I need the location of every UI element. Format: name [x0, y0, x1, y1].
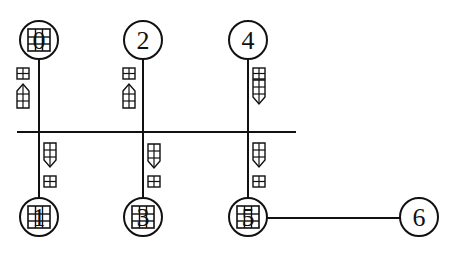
arrow-up-icon — [17, 84, 29, 108]
node-4: 4 — [229, 21, 267, 59]
arrow-down-icon — [44, 143, 56, 167]
glyph-box-icon — [253, 68, 265, 79]
glyph-box-icon — [17, 68, 29, 79]
node-label: 2 — [137, 26, 150, 55]
arrow-down-icon — [253, 80, 265, 104]
node-label: 6 — [413, 203, 426, 232]
node-5: 5 — [229, 198, 267, 236]
edge-label-5 — [253, 143, 265, 187]
glyph-box-icon — [253, 176, 265, 187]
node-0: 0 — [20, 21, 58, 59]
node-2: 2 — [124, 21, 162, 59]
node-6: 6 — [400, 198, 438, 236]
node-label: 3 — [137, 203, 150, 232]
node-3: 3 — [124, 198, 162, 236]
arrow-down-icon — [253, 143, 265, 167]
arrow-down-icon — [148, 144, 160, 168]
graph-diagram: 0 2 4 1 3 5 6 — [0, 0, 457, 255]
node-1: 1 — [20, 198, 58, 236]
edge-label-1 — [44, 143, 56, 187]
node-label: 0 — [33, 26, 46, 55]
glyph-box-icon — [148, 176, 160, 187]
glyph-box-icon — [123, 68, 135, 79]
node-label: 5 — [242, 203, 255, 232]
edge-label-4 — [253, 68, 265, 104]
edge-label-0 — [17, 68, 29, 108]
edge-label-2 — [123, 68, 135, 108]
node-label: 1 — [33, 203, 46, 232]
node-label: 4 — [242, 26, 255, 55]
arrow-up-icon — [123, 84, 135, 108]
glyph-box-icon — [44, 176, 56, 187]
edge-label-3 — [148, 144, 160, 187]
